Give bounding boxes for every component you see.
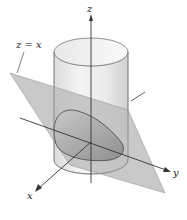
- diagram-canvas: z y x z = x: [0, 0, 187, 220]
- plane-label-leader: [17, 52, 24, 73]
- z-axis-label: z: [86, 3, 93, 14]
- y-axis-label: y: [172, 167, 179, 178]
- x-axis-arrowhead: [35, 184, 42, 192]
- y-axis-back: [131, 92, 145, 101]
- x-axis-label: x: [27, 190, 33, 201]
- plane-label: z = x: [15, 39, 42, 50]
- y-axis-arrowhead: [163, 167, 171, 172]
- z-axis-arrowhead: [89, 14, 93, 21]
